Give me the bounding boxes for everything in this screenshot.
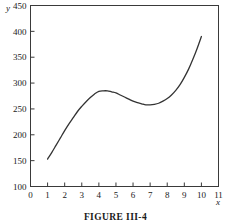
y-tick-label: 250 <box>13 104 27 114</box>
x-tick-label: 1 <box>45 190 50 200</box>
x-tick-label: 10 <box>197 190 207 200</box>
x-tick-label: 3 <box>80 190 85 200</box>
x-axis-tick-labels: 01234567891011 <box>28 190 223 200</box>
y-tick-label: 450 <box>13 1 27 11</box>
y-axis-tick-labels: 100150200250300350400450 <box>13 1 27 192</box>
y-axis-label: y <box>5 3 10 13</box>
y-tick-label: 350 <box>13 52 27 62</box>
y-tick-label: 200 <box>13 130 27 140</box>
figure-caption: FIGURE III-4 <box>0 212 231 222</box>
y-tick-label: 150 <box>13 156 27 166</box>
plot-frame <box>31 6 219 187</box>
x-tick-label: 9 <box>182 190 187 200</box>
x-tick-label: 5 <box>114 190 119 200</box>
figure-container: y x 100150200250300350400450 01234567891… <box>0 0 231 223</box>
y-tick-label: 400 <box>13 27 27 37</box>
y-tick-label: 100 <box>13 182 27 192</box>
x-tick-label: 0 <box>28 190 33 200</box>
x-tick-label: 2 <box>62 190 67 200</box>
x-tick-label: 8 <box>165 190 170 200</box>
x-tick-label: 7 <box>148 190 153 200</box>
x-tick-label: 6 <box>131 190 136 200</box>
x-tick-label: 11 <box>214 190 223 200</box>
x-tick-label: 4 <box>97 190 102 200</box>
cubic-function-plot: y x 100150200250300350400450 01234567891… <box>0 0 231 223</box>
y-tick-label: 300 <box>13 78 27 88</box>
